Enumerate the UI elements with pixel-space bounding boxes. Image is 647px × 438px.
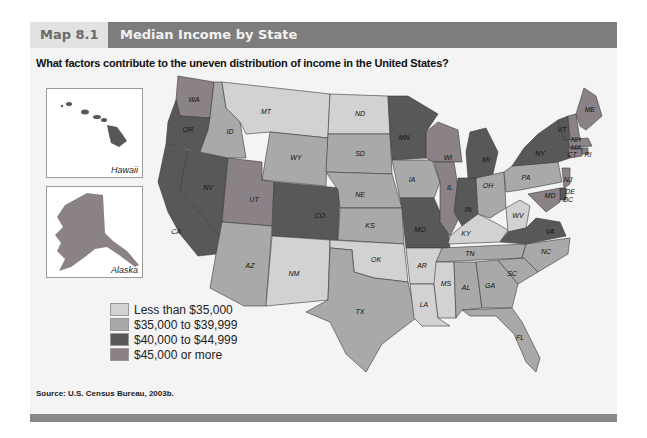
svg-text:IN: IN [465, 206, 473, 213]
state-co[interactable] [272, 182, 340, 240]
svg-text:TN: TN [465, 250, 475, 257]
svg-text:NH: NH [571, 136, 582, 143]
svg-text:NJ: NJ [564, 176, 573, 183]
svg-text:DE: DE [565, 188, 575, 195]
svg-text:MN: MN [399, 134, 411, 141]
svg-text:GA: GA [485, 282, 495, 289]
svg-text:NM: NM [289, 270, 300, 277]
svg-text:VT: VT [558, 126, 568, 133]
svg-text:NE: NE [355, 191, 365, 198]
svg-text:ND: ND [355, 110, 365, 117]
svg-text:AZ: AZ [245, 262, 256, 269]
svg-text:CO: CO [315, 212, 326, 219]
svg-text:IA: IA [409, 176, 416, 183]
svg-text:MI: MI [482, 156, 490, 163]
svg-text:OH: OH [483, 182, 494, 189]
svg-text:MO: MO [414, 226, 426, 233]
svg-text:KS: KS [365, 222, 375, 229]
legend-label: Less than $35,000 [134, 303, 233, 317]
svg-text:FL: FL [516, 334, 524, 341]
svg-text:CT: CT [567, 151, 577, 158]
state-ms[interactable] [434, 262, 456, 318]
svg-text:CA: CA [171, 228, 181, 235]
us-map: WA OR CA NV ID MT WY UT AZ CO NM ND SD N… [30, 22, 617, 422]
svg-text:UT: UT [249, 196, 259, 203]
legend-item: $40,000 to $44,999 [110, 332, 237, 347]
svg-text:VA: VA [546, 228, 555, 235]
svg-text:WY: WY [290, 154, 303, 161]
legend-swatch [110, 333, 129, 346]
state-mi[interactable] [466, 128, 498, 178]
svg-text:SD: SD [355, 150, 365, 157]
legend-label: $40,000 to $44,999 [134, 333, 237, 347]
svg-text:IL: IL [447, 184, 453, 191]
svg-text:NC: NC [541, 248, 552, 255]
state-fl[interactable] [462, 308, 540, 372]
svg-text:NY: NY [535, 150, 546, 157]
svg-text:MD: MD [545, 192, 556, 199]
state-oh[interactable] [476, 172, 506, 218]
svg-text:OK: OK [371, 256, 381, 263]
svg-text:KY: KY [461, 230, 472, 237]
legend-item: $45,000 or more [110, 347, 237, 362]
svg-text:ID: ID [227, 128, 234, 135]
svg-text:AR: AR [416, 262, 427, 269]
legend-item: Less than $35,000 [110, 302, 237, 317]
legend-swatch [110, 318, 129, 331]
state-ia[interactable] [392, 160, 440, 198]
svg-text:OR: OR [183, 126, 194, 133]
svg-text:RI: RI [585, 151, 592, 158]
map-panel: Map 8.1 Median Income by State What fact… [30, 22, 617, 422]
svg-text:PA: PA [522, 174, 531, 181]
svg-text:AL: AL [461, 284, 471, 291]
source-note: Source: U.S. Census Bureau, 2003b. [36, 389, 174, 398]
legend-swatch [110, 303, 129, 316]
svg-text:TX: TX [356, 308, 365, 315]
legend-swatch [110, 348, 129, 361]
svg-text:ME: ME [585, 106, 596, 113]
map-legend: Less than $35,000 $35,000 to $39,999 $40… [110, 302, 237, 362]
legend-label: $45,000 or more [134, 348, 222, 362]
legend-item: $35,000 to $39,999 [110, 317, 237, 332]
svg-text:WA: WA [188, 96, 199, 103]
svg-text:MS: MS [441, 280, 452, 287]
svg-text:MA: MA [571, 144, 582, 151]
svg-text:SC: SC [507, 270, 518, 277]
svg-text:WV: WV [512, 212, 525, 219]
state-pa[interactable] [504, 162, 562, 192]
legend-label: $35,000 to $39,999 [134, 318, 237, 332]
svg-text:MT: MT [261, 108, 272, 115]
bottom-rule [30, 414, 617, 422]
svg-text:LA: LA [420, 301, 429, 308]
svg-text:NV: NV [203, 184, 214, 191]
svg-text:DC: DC [563, 196, 574, 203]
svg-text:WI: WI [444, 154, 453, 161]
